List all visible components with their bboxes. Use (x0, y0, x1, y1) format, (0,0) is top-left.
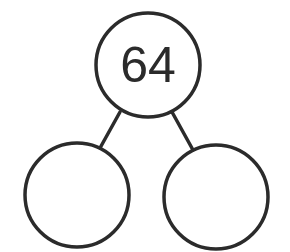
left-part-value (25, 170, 129, 220)
right-part-value (164, 172, 268, 222)
whole-value: 64 (96, 38, 200, 92)
right-connector-line (172, 112, 193, 150)
left-connector-line (100, 112, 120, 148)
